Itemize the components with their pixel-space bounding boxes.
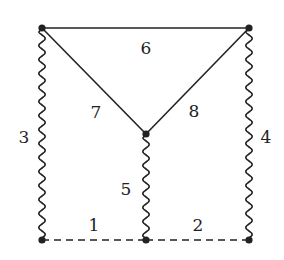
vertex-center — [142, 130, 149, 137]
graph-diagram: 12345678 — [0, 0, 284, 260]
edge-label-3: 3 — [19, 127, 30, 147]
edge-label-7: 7 — [91, 102, 102, 122]
edge-label-5: 5 — [121, 179, 132, 199]
edge-5-wavy — [143, 134, 149, 240]
edge-label-4: 4 — [261, 127, 272, 147]
vertex-top-left — [38, 24, 45, 31]
edge-label-2: 2 — [193, 215, 204, 235]
edge-label-8: 8 — [189, 101, 200, 121]
vertex-bottom-right — [245, 236, 252, 243]
vertex-top-right — [245, 24, 252, 31]
edge-3-wavy — [39, 28, 45, 240]
edge-4-wavy — [246, 28, 252, 240]
edge-label-6: 6 — [141, 38, 152, 58]
edge-label-1: 1 — [89, 215, 100, 235]
vertex-bottom-left — [38, 236, 45, 243]
vertex-bottom-middle — [142, 236, 149, 243]
